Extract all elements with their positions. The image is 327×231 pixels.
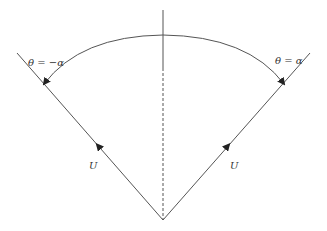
theta-right-label: θ = α bbox=[275, 55, 303, 66]
right-wall-ray bbox=[163, 53, 310, 220]
velocity-arrow-left bbox=[97, 145, 100, 148]
wedge-flow-diagram: θ = −α θ = α U U bbox=[0, 0, 327, 231]
theta-left-label: θ = −α bbox=[28, 57, 64, 68]
diagram-canvas: θ = −α θ = α U U bbox=[0, 0, 327, 231]
angle-arc-right bbox=[163, 35, 284, 84]
velocity-right-label: U bbox=[230, 160, 239, 171]
velocity-arrow-right bbox=[226, 145, 229, 148]
velocity-left-label: U bbox=[89, 160, 98, 171]
left-wall-ray bbox=[17, 53, 163, 220]
